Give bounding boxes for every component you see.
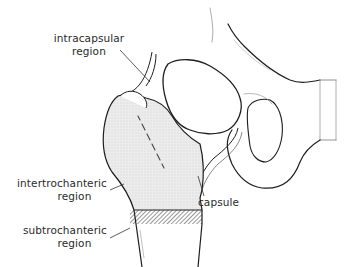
label-intracapsular-region: intracapsular region <box>44 32 134 58</box>
label-text: intracapsular <box>44 32 134 45</box>
label-capsule: capsule <box>198 196 248 209</box>
label-intertrochanteric-region: intertrochanteric region <box>12 177 107 203</box>
label-subtrochanteric-region: subtrochanteric region <box>12 224 107 250</box>
label-text: intertrochanteric <box>12 177 107 190</box>
label-text: region <box>44 45 134 58</box>
label-text: capsule <box>198 196 248 209</box>
subtrochanteric-hatch <box>130 210 202 224</box>
label-text: region <box>12 190 107 203</box>
intertrochanteric-leader <box>110 184 124 190</box>
hip-fracture-regions-diagram: intracapsular region intertrochanteric r… <box>0 0 350 267</box>
subtrochanteric-leader <box>110 228 130 238</box>
label-text: subtrochanteric <box>12 224 107 237</box>
label-text: region <box>12 237 107 250</box>
